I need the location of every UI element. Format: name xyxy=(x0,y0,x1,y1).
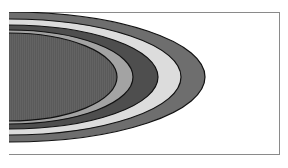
nested-ellipse-diagram xyxy=(0,0,288,168)
